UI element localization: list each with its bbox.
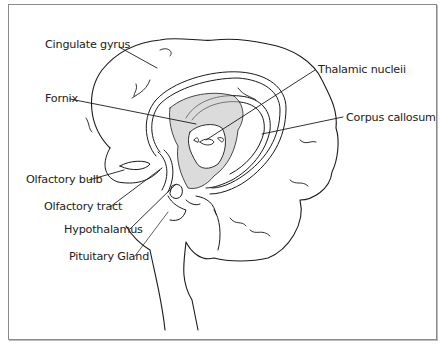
label-olfactory-tract: Olfactory tract: [44, 200, 122, 213]
label-hypothalamus: Hypothalamus: [64, 223, 143, 236]
label-olfactory-bulb: Olfactory bulb: [26, 173, 102, 186]
pituitary-shape: [170, 184, 182, 198]
olfactory-bulb-shape: [120, 161, 150, 169]
label-cingulate-gyrus: Cingulate gyrus: [45, 38, 130, 51]
fornix-arch: [158, 150, 173, 192]
label-thalamic-nuclei: Thalamic nucleii: [318, 63, 406, 76]
leader-corpus: [262, 117, 343, 134]
label-fornix: Fornix: [45, 92, 78, 105]
label-pituitary-gland: Pituitary Gland: [69, 250, 149, 263]
cerebrum-outline: [92, 39, 339, 330]
label-corpus-callosum: Corpus callosum: [346, 111, 436, 124]
